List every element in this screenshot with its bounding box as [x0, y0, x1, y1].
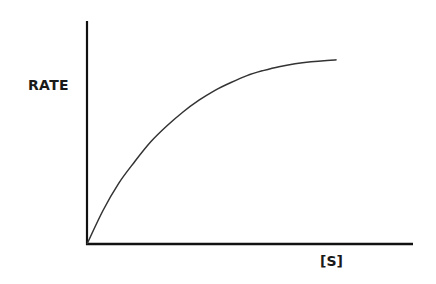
- y-axis-label: RATE: [28, 77, 69, 93]
- x-axis-label: [S]: [320, 253, 343, 269]
- rate-curve: [87, 60, 337, 244]
- rate-vs-substrate-chart: RATE [S]: [0, 0, 436, 284]
- chart-canvas: [0, 0, 436, 284]
